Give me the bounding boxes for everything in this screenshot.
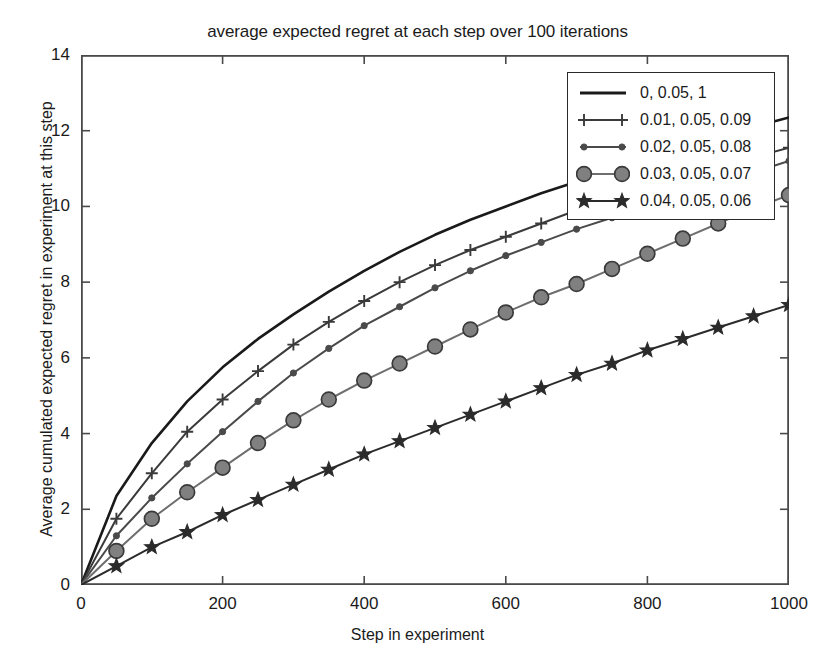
series-marker-bigdot <box>577 166 592 181</box>
series-marker-plus <box>429 259 441 271</box>
series-marker-dot <box>538 239 544 245</box>
series-marker-plus <box>616 114 628 126</box>
series-marker-dot <box>290 370 296 376</box>
series-marker-dot <box>255 398 261 404</box>
series-marker-dot <box>220 429 226 435</box>
series-2 <box>81 158 789 585</box>
series-marker-bigdot <box>321 392 336 407</box>
legend-label: 0.01, 0.05, 0.09 <box>640 111 751 129</box>
series-marker-star <box>711 320 725 334</box>
series-marker-plus <box>783 142 789 154</box>
legend-swatch-bigdot <box>576 162 630 186</box>
series-marker-dot <box>574 226 580 232</box>
chart-figure: average expected regret at each step ove… <box>0 0 835 663</box>
series-marker-star <box>782 297 789 311</box>
series-marker-bigdot <box>640 246 655 261</box>
series-marker-bigdot <box>428 339 443 354</box>
legend-label: 0.04, 0.05, 0.06 <box>640 192 751 210</box>
series-marker-dot <box>786 158 789 164</box>
series-marker-bigdot <box>569 277 584 292</box>
series-marker-star <box>392 434 406 448</box>
series-marker-bigdot <box>215 460 230 475</box>
series-marker-star <box>357 447 371 461</box>
series-marker-plus <box>578 114 590 126</box>
legend-swatch-none <box>576 81 630 105</box>
series-marker-dot <box>619 143 625 149</box>
x-axis-label: Step in experiment <box>0 626 835 644</box>
series-marker-star <box>746 309 760 323</box>
series-marker-dot <box>361 323 367 329</box>
series-marker-dot <box>149 495 155 501</box>
series-marker-dot <box>581 143 587 149</box>
series-marker-dot <box>326 345 332 351</box>
series-marker-star <box>215 507 229 521</box>
series-marker-plus <box>535 217 547 229</box>
legend-swatch-star <box>576 189 630 213</box>
legend-item-1: 0.01, 0.05, 0.09 <box>568 106 774 133</box>
series-marker-star <box>145 540 159 554</box>
series-marker-bigdot <box>180 485 195 500</box>
legend-item-4: 0.04, 0.05, 0.06 <box>568 187 774 214</box>
series-marker-bigdot <box>534 290 549 305</box>
series-marker-dot <box>467 268 473 274</box>
legend-label: 0, 0.05, 1 <box>640 84 707 102</box>
series-marker-bigdot <box>498 305 513 320</box>
series-marker-star <box>640 343 654 357</box>
series-marker-dot <box>503 253 509 259</box>
series-marker-plus <box>500 231 512 243</box>
series-marker-star <box>605 356 619 370</box>
series-marker-star <box>109 558 123 572</box>
series-marker-plus <box>464 244 476 256</box>
legend-swatch-dot <box>576 135 630 159</box>
x-tick-label: 200 <box>208 594 236 614</box>
series-marker-star <box>286 477 300 491</box>
series-marker-star <box>251 492 265 506</box>
series-marker-bigdot <box>463 322 478 337</box>
series-marker-star <box>428 420 442 434</box>
x-tick-label: 400 <box>350 594 378 614</box>
series-marker-bigdot <box>357 373 372 388</box>
series-marker-plus <box>358 295 370 307</box>
series-marker-bigdot <box>286 413 301 428</box>
series-marker-star <box>615 193 629 207</box>
series-marker-dot <box>432 285 438 291</box>
series-marker-bigdot <box>251 436 266 451</box>
legend-label: 0.03, 0.05, 0.07 <box>640 165 751 183</box>
chart-legend: 0, 0.05, 10.01, 0.05, 0.090.02, 0.05, 0.… <box>567 72 775 220</box>
legend-item-2: 0.02, 0.05, 0.08 <box>568 133 774 160</box>
series-marker-bigdot <box>144 511 159 526</box>
x-tick-label: 600 <box>492 594 520 614</box>
series-marker-star <box>676 331 690 345</box>
series-marker-bigdot <box>782 188 789 203</box>
series-line <box>81 161 789 585</box>
series-marker-star <box>577 193 591 207</box>
legend-swatch-plus <box>576 108 630 132</box>
series-marker-star <box>322 462 336 476</box>
x-tick-label: 0 <box>76 594 85 614</box>
y-axis-label: Average cumulated expected regret in exp… <box>38 59 56 579</box>
series-marker-star <box>463 407 477 421</box>
series-marker-dot <box>113 533 119 539</box>
x-tick-label: 800 <box>633 594 661 614</box>
series-marker-dot <box>184 461 190 467</box>
legend-item-3: 0.03, 0.05, 0.07 <box>568 160 774 187</box>
series-marker-bigdot <box>392 356 407 371</box>
series-marker-star <box>180 524 194 538</box>
series-marker-bigdot <box>109 544 124 559</box>
series-marker-bigdot <box>675 231 690 246</box>
legend-item-0: 0, 0.05, 1 <box>568 79 774 106</box>
series-marker-star <box>569 367 583 381</box>
series-marker-bigdot <box>605 261 620 276</box>
series-marker-plus <box>394 276 406 288</box>
series-marker-plus <box>323 316 335 328</box>
chart-title: average expected regret at each step ove… <box>0 22 835 42</box>
series-marker-bigdot <box>615 166 630 181</box>
legend-label: 0.02, 0.05, 0.08 <box>640 138 751 156</box>
series-marker-star <box>499 394 513 408</box>
series-marker-star <box>534 381 548 395</box>
x-tick-label: 1000 <box>770 594 808 614</box>
series-marker-dot <box>397 304 403 310</box>
